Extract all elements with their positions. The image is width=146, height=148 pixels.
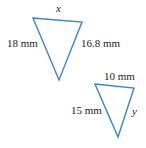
triangle1-left-label: 18 mm [7,38,38,49]
triangle1-top-label: x [56,3,61,14]
triangle1-right-label: 16.8 mm [81,38,120,49]
triangle2-right-label: y [132,106,137,117]
triangle2-top-label: 10 mm [104,71,135,82]
similar-triangles-diagram: x 18 mm 16.8 mm 10 mm 15 mm y [0,0,146,148]
triangle2-left-label: 15 mm [71,105,102,116]
triangle-1 [33,18,82,80]
